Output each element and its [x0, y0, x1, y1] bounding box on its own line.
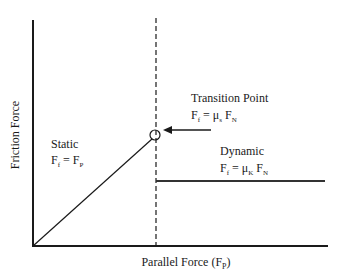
eq-sign: = — [60, 153, 73, 167]
eq-sign: = — [200, 108, 213, 122]
eq-sub: P — [80, 161, 84, 169]
friction-diagram: Friction Force Parallel Force (FP) Stati… — [0, 0, 337, 276]
transition-point-label: Transition Point — [191, 91, 269, 105]
static-equation: Ff = FP — [51, 153, 84, 169]
x-axis-label: Parallel Force (FP) — [141, 255, 230, 271]
eq-term: F — [222, 108, 232, 122]
transition-point-marker — [150, 130, 160, 140]
transition-point-equation: Ff = μs FN — [191, 108, 237, 124]
arrow-left-icon — [163, 126, 172, 134]
eq-sub: N — [263, 169, 268, 177]
dynamic-label: Dynamic — [220, 144, 264, 158]
x-axis-label-main: Parallel Force (F — [141, 255, 222, 269]
eq-term: F — [253, 161, 263, 175]
dynamic-equation: Ff = μK FN — [220, 161, 268, 177]
y-axis-label: Friction Force — [8, 101, 22, 169]
x-axis-label-close: ) — [227, 255, 231, 269]
eq-sign: = — [229, 161, 242, 175]
eq-sub: N — [232, 116, 237, 124]
static-label: Static — [51, 137, 78, 151]
